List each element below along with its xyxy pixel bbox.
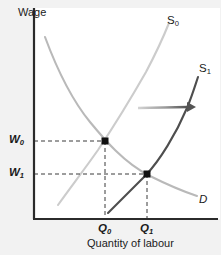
equilibrium-marker-e1: [144, 171, 151, 178]
supply-curve-shifted-label-sub: 1: [207, 67, 211, 76]
supply-curve-initial-label-sub: 0: [175, 19, 179, 28]
supply-curve-initial-label-text: S: [167, 14, 175, 26]
x-tick-label-q1: Q1: [140, 223, 153, 235]
plot-area-background: [34, 8, 220, 219]
y-tick-label-w1-sub: 1: [20, 171, 24, 180]
x-tick-label-q0-sub: 0: [107, 227, 111, 236]
x-tick-label-q1-sub: 1: [149, 227, 153, 236]
chart-canvas: [0, 0, 221, 255]
y-tick-label-w1-text: W: [9, 166, 20, 178]
supply-demand-figure: Wage Quantity of labour S0 S1 D W0 W1 Q0…: [0, 0, 221, 255]
equilibrium-marker-e0: [102, 138, 109, 145]
y-axis-title: Wage: [18, 7, 46, 18]
y-tick-label-w1: W1: [9, 167, 24, 179]
demand-curve-label: D: [199, 194, 207, 206]
supply-curve-shifted-label: S1: [199, 63, 211, 75]
y-tick-label-w0-text: W: [9, 133, 20, 145]
y-tick-label-w0: W0: [9, 134, 24, 146]
x-axis-title: Quantity of labour: [87, 238, 174, 249]
x-tick-label-q1-text: Q: [140, 222, 149, 234]
supply-shift-arrow-shaft: [138, 107, 188, 108]
supply-curve-shifted-label-text: S: [199, 62, 207, 74]
x-tick-label-q0: Q0: [98, 223, 111, 235]
supply-curve-initial-label: S0: [167, 15, 179, 27]
y-tick-label-w0-sub: 0: [20, 138, 24, 147]
x-tick-label-q0-text: Q: [98, 222, 107, 234]
